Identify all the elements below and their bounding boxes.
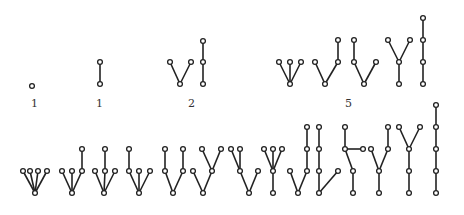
tree-root-node: [397, 82, 402, 87]
tree-node: [317, 125, 322, 130]
tree-edge: [298, 171, 307, 193]
tree-node: [229, 147, 234, 152]
tree-edge: [212, 149, 221, 171]
tree-root-node: [362, 82, 367, 87]
tree-node: [127, 169, 132, 174]
count-label-n1: 1: [31, 97, 38, 110]
tree-node: [288, 60, 293, 65]
tree-node: [317, 169, 322, 174]
tree-root-node: [98, 82, 103, 87]
tree-node: [386, 125, 391, 130]
tree-edge: [371, 149, 379, 171]
tree-node: [280, 147, 285, 152]
tree-root-node: [171, 191, 176, 196]
count-label-n3: 2: [188, 97, 195, 110]
tree-node: [262, 147, 267, 152]
nodes-layer: [21, 16, 439, 196]
tree-node: [271, 147, 276, 152]
tree-node: [434, 103, 439, 108]
tree-node: [238, 147, 243, 152]
tree-node: [127, 147, 132, 152]
tree-node: [434, 125, 439, 130]
count-label-n2: 1: [96, 97, 103, 110]
tree-edge: [354, 62, 364, 84]
tree-node: [201, 39, 206, 44]
tree-edge: [279, 62, 290, 84]
tree-node: [60, 169, 65, 174]
tree-edge: [379, 149, 388, 171]
tree-node: [148, 169, 153, 174]
tree-node: [352, 38, 357, 43]
tree-node: [407, 169, 412, 174]
tree-edge: [399, 40, 410, 62]
tree-edge: [315, 62, 325, 84]
tree-edge: [170, 62, 180, 84]
tree-edge: [249, 171, 258, 193]
tree-root-node: [70, 191, 75, 196]
tree-root-node: [317, 191, 322, 196]
tree-node: [191, 169, 196, 174]
tree-node: [103, 147, 108, 152]
tree-edge: [62, 171, 72, 193]
tree-node: [219, 147, 224, 152]
tree-node: [181, 147, 186, 152]
tree-edge: [139, 171, 150, 193]
tree-edge: [129, 171, 139, 193]
tree-root-node: [407, 191, 412, 196]
tree-node: [163, 169, 168, 174]
tree-node: [256, 169, 261, 174]
tree-node: [28, 169, 33, 174]
tree-edge: [409, 127, 420, 149]
tree-root-node: [102, 191, 107, 196]
tree-node: [352, 60, 357, 65]
tree-node: [407, 147, 412, 152]
tree-edge: [180, 62, 191, 84]
tree-node: [336, 169, 341, 174]
tree-edge: [72, 171, 82, 193]
tree-edge: [290, 171, 298, 193]
tree-root-node: [377, 191, 382, 196]
tree-node: [343, 147, 348, 152]
tree-node: [137, 169, 142, 174]
tree-edge: [364, 62, 376, 84]
tree-edge: [203, 171, 212, 193]
tree-node: [369, 147, 374, 152]
tree-node: [421, 38, 426, 43]
tree-node: [200, 147, 205, 152]
tree-edge: [95, 171, 104, 193]
tree-node: [103, 169, 108, 174]
tree-root-node: [33, 191, 38, 196]
tree-edge: [319, 171, 338, 193]
tree-node: [418, 125, 423, 130]
tree-node: [93, 169, 98, 174]
tree-node: [434, 169, 439, 174]
tree-node: [305, 169, 310, 174]
tree-root-node: [201, 82, 206, 87]
tree-node: [377, 169, 382, 174]
tree-node: [317, 147, 322, 152]
tree-node: [201, 60, 206, 65]
tree-node: [181, 169, 186, 174]
tree-edge: [290, 62, 301, 84]
tree-root-node: [247, 191, 252, 196]
tree-root-node: [137, 191, 142, 196]
tree-node: [299, 60, 304, 65]
tree-node: [408, 38, 413, 43]
tree-root-node: [296, 191, 301, 196]
tree-node: [98, 60, 103, 65]
tree-node: [163, 147, 168, 152]
tree-node: [336, 38, 341, 43]
tree-edge: [264, 149, 273, 171]
tree-node: [343, 125, 348, 130]
tree-node: [168, 60, 173, 65]
tree-node: [113, 169, 118, 174]
tree-edge: [388, 40, 399, 62]
tree-node: [21, 169, 26, 174]
tree-node: [351, 169, 356, 174]
tree-root-node: [30, 84, 35, 89]
tree-node: [421, 60, 426, 65]
tree-node: [434, 147, 439, 152]
tree-node: [271, 169, 276, 174]
tree-diagram: 1 1 2 5: [0, 0, 464, 215]
tree-edge: [240, 171, 249, 193]
